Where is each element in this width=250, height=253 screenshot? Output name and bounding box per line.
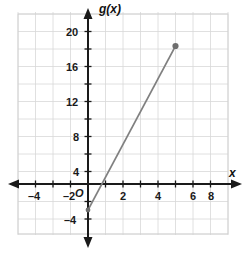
- line-end-point: [172, 43, 178, 49]
- x-tick-label-8: 8: [208, 191, 214, 202]
- x-tick-label-2: 2: [120, 191, 126, 202]
- x-tick-label-6: 6: [190, 191, 196, 202]
- graph-figure: g(x) x O 20 16 12 8 4 –4 –4 –2 2 4 6 8: [0, 0, 250, 253]
- y-tick-label-8: 8: [73, 132, 79, 143]
- x-tick-label-neg4: –4: [28, 191, 40, 202]
- y-tick-label-12: 12: [66, 97, 78, 108]
- x-tick-label-4: 4: [155, 191, 161, 202]
- y-tick-label-20: 20: [66, 27, 78, 38]
- figure-background: [0, 0, 250, 253]
- y-tick-label-16: 16: [66, 62, 78, 73]
- x-tick-label-neg2: –2: [63, 191, 75, 202]
- y-tick-label-4: 4: [73, 167, 79, 178]
- origin-label: O: [75, 188, 84, 199]
- x-axis-title: x: [229, 167, 236, 179]
- y-axis-title: g(x): [99, 3, 121, 15]
- line-start-point: [86, 208, 91, 213]
- coordinate-plane: [0, 0, 250, 253]
- y-tick-label-neg4: –4: [64, 215, 76, 226]
